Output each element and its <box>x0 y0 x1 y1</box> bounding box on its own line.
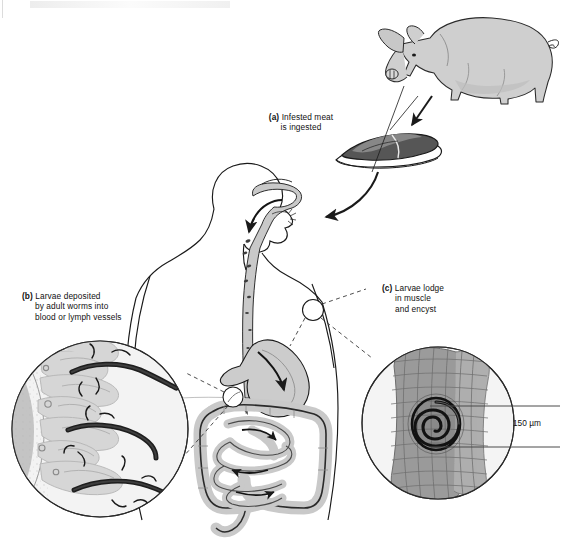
callout-circle-intestine <box>223 387 243 407</box>
inset-villi-adult-worms <box>0 338 188 524</box>
scan-edge-artifact <box>2 0 3 18</box>
label-b-line2: by adult worms into <box>22 301 108 311</box>
diagram-canvas <box>0 0 564 542</box>
life-cycle-diagram: (a) Infested meat is ingested (b) Larvae… <box>0 0 564 542</box>
label-c-line3: and encyst <box>382 304 436 314</box>
label-c: (c) Larvae lodge in muscle and encyst <box>382 283 492 314</box>
label-c-line2: in muscle <box>382 293 431 303</box>
label-b-marker: (b) <box>22 291 33 301</box>
label-b-line1: Larvae deposited <box>35 291 100 301</box>
label-b: (b) Larvae deposited by adult worms into… <box>22 291 162 322</box>
pig-illustration <box>378 18 558 104</box>
label-c-marker: (c) <box>382 283 392 293</box>
label-a-line2: is ingested <box>281 122 322 132</box>
label-a-marker: (a) <box>269 112 279 122</box>
scale-bar-label: 150 µm <box>513 418 541 428</box>
cropped-caption-remnant <box>30 1 230 8</box>
label-a-line1: Infested meat <box>282 112 334 122</box>
callout-circle-muscle <box>303 300 324 321</box>
label-c-line1: Larvae lodge <box>395 283 444 293</box>
label-b-line3: blood or lymph vessels <box>22 312 122 322</box>
small-intestine <box>214 421 292 507</box>
label-a: (a) Infested meat is ingested <box>246 112 356 133</box>
inset-muscle-encysted-larva <box>362 347 514 501</box>
ingestion-arrow <box>326 172 378 217</box>
